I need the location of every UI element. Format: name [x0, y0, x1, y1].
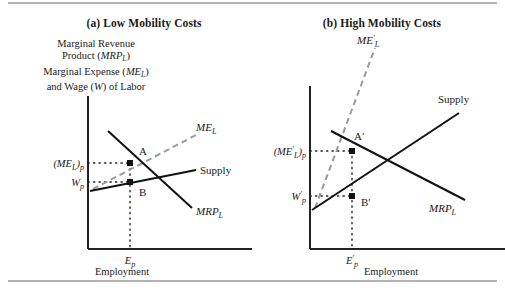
figure-container: (a) Low Mobility Costs Marginal Revenue … — [0, 0, 505, 292]
panel-b-point-a-prime-label: A′ — [354, 130, 364, 142]
panel-a-label-mrp-l: MRPL — [195, 205, 224, 220]
panel-b-curve-mrp-l — [331, 131, 465, 200]
panel-b-point-b-prime-label: B′ — [361, 196, 371, 208]
panel-b-plot: A′ B′ ME′L Supply MRPL (ME′L)p W′p E′p — [253, 0, 505, 292]
panel-b-ytick-wage-prime: W′p — [292, 190, 307, 205]
panel-low-mobility-costs: (a) Low Mobility Costs Marginal Revenue … — [0, 0, 252, 292]
panel-a-label-supply: Supply — [200, 164, 232, 176]
panel-a-label-me-l: MEL — [195, 121, 217, 136]
panel-a-point-b-marker — [127, 179, 133, 185]
panel-b-x-axis-label: Employment — [331, 266, 451, 277]
panel-a-plot: A B MEL Supply MRPL (MEL)p Wp Ep — [0, 0, 252, 292]
panel-a-curve-mrp-l — [108, 131, 192, 208]
panel-b-label-supply: Supply — [438, 93, 470, 105]
panel-a-point-b-label: B — [139, 186, 146, 198]
panel-a-point-a-label: A — [139, 145, 147, 157]
panel-b-curve-me-l-prime — [315, 48, 375, 208]
panel-a-ytick-me: (MEL)p — [53, 158, 84, 172]
panel-b-label-me-l-prime: ME′L — [356, 34, 380, 49]
panel-b-label-mrp-l: MRPL — [428, 202, 457, 217]
panel-a-x-axis-label: Employment — [62, 266, 182, 277]
panel-b-curve-supply — [312, 113, 459, 210]
panel-high-mobility-costs: (b) High Mobility Costs A′ B′ — [253, 0, 505, 292]
panel-b-point-b-prime-marker — [349, 193, 355, 199]
panel-b-point-a-prime-marker — [349, 148, 355, 154]
panel-a-point-a-marker — [127, 160, 133, 166]
panel-b-ytick-me-prime: (ME′L)p — [274, 145, 306, 160]
panel-a-ytick-wage: Wp — [71, 177, 84, 191]
